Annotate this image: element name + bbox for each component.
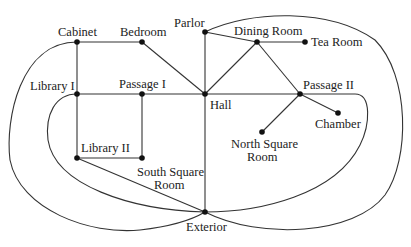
node-library-ii [74,155,80,161]
node-passage-ii [297,91,303,97]
label-passage-i: Passage I [119,77,166,91]
label-library-i: Library I [30,79,75,93]
node-north-square-room [259,129,265,135]
label-south-square-room-line1: South Square [137,165,204,179]
node-exterior [202,209,208,215]
label-chamber: Chamber [315,117,362,131]
label-tea-room: Tea Room [311,35,363,49]
label-exterior: Exterior [186,220,228,234]
node-dining-room [254,39,260,45]
label-north-square-room-line1: North Square [231,137,298,151]
node-library-i [74,91,80,97]
label-south-square-room-line2: Room [154,178,185,192]
label-cabinet: Cabinet [58,25,97,39]
label-passage-ii: Passage II [303,78,354,92]
label-parlor: Parlor [174,16,205,30]
edge-passage-ii-chamber [300,94,338,113]
edge-dining-passage-ii [257,42,300,94]
label-bedroom: Bedroom [120,25,167,39]
node-passage-i [139,91,145,97]
node-south-square-room [139,155,145,161]
node-tea-room [302,39,308,45]
label-hall: Hall [210,98,232,112]
node-hall [202,91,208,97]
room-graph-diagram: Cabinet Bedroom Parlor Dining Room Tea R… [0,0,411,247]
node-bedroom [139,39,145,45]
edge-dining-hall [205,42,257,94]
node-chamber [335,110,341,116]
edge-parlor-exterior [205,16,403,230]
node-cabinet [74,39,80,45]
edge-passage-ii-north-square [262,94,300,132]
label-library-ii: Library II [81,141,130,155]
node-parlor [202,29,208,35]
label-dining-room: Dining Room [234,24,303,38]
label-north-square-room-line2: Room [247,150,278,164]
